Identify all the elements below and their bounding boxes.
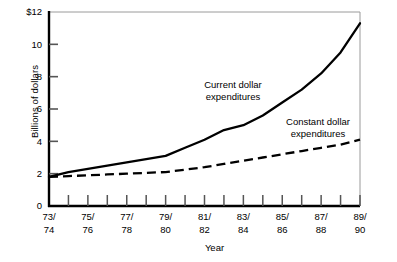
series-annotation-line2: expenditures [291,128,346,139]
x-tick-label-bottom: 82 [199,224,210,235]
x-tick-label-top: 87/ [315,211,329,222]
series-line-current-dollar [49,23,360,177]
x-tick-label-bottom: 90 [355,224,366,235]
y-tick-label: 4 [37,136,42,147]
x-tick-label-top: 81/ [198,211,212,222]
y-tick-label: 8 [37,71,42,82]
x-tick-label-top: 75/ [81,211,95,222]
series-line-constant-dollar [49,140,360,177]
x-tick-label-bottom: 84 [238,224,249,235]
line-chart-plot: 0246810$12 73/7475/7677/7879/8081/8283/8… [0,0,397,262]
y-tick-label: 2 [37,168,42,179]
x-tick-label-top: 79/ [159,211,173,222]
x-tick-label-bottom: 86 [277,224,288,235]
x-tick-label-bottom: 80 [160,224,171,235]
x-tick-label-bottom: 78 [121,224,132,235]
series-annotation-line1: Current dollar [204,79,262,90]
y-tick-label: $12 [26,6,42,17]
y-tick-label: 6 [37,103,42,114]
x-tick-label-bottom: 74 [44,224,55,235]
x-tick-label-top: 89/ [353,211,367,222]
x-tick-label-top: 73/ [42,211,56,222]
y-tick-labels: 0246810$12 [26,6,42,211]
x-tick-label-top: 85/ [276,211,290,222]
x-tick-label-top: 83/ [237,211,251,222]
series-annotation-line2: expenditures [206,91,261,102]
series-annotation-line1: Constant dollar [286,116,350,127]
x-axis-title-text: Year [205,242,224,253]
x-tick-marks [68,195,360,206]
x-tick-label-bottom: 76 [83,224,94,235]
chart-figure: Billions of dollars 0246810$12 73/7475/7… [0,0,397,262]
x-tick-label-top: 77/ [120,211,134,222]
x-axis-title: Year [0,242,397,253]
x-tick-labels: 73/7475/7677/7879/8081/8283/8485/8687/88… [42,211,367,235]
x-tick-label-bottom: 88 [316,224,327,235]
y-tick-label: 10 [31,39,42,50]
y-tick-marks [49,44,58,173]
y-tick-label: 0 [37,200,42,211]
